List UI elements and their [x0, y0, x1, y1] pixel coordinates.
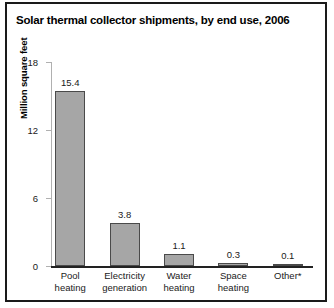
plot-area: 061218 15.4Poolheating3.8Electricitygene… [51, 62, 323, 266]
y-tick: 6 [46, 198, 51, 199]
x-category-label: Spaceheating [218, 270, 249, 293]
bar-value-label: 3.8 [118, 209, 131, 220]
x-category-label: Electricitygeneration [102, 270, 147, 293]
y-tick-label: 12 [27, 125, 38, 136]
category-label-line: Other* [274, 270, 301, 281]
y-axis-label: Million square feet [18, 37, 29, 119]
y-tick: 12 [46, 130, 51, 131]
x-category-label: Other* [274, 270, 301, 282]
y-tick-label: 18 [27, 57, 38, 68]
y-tick: 18 [46, 62, 51, 63]
bar [273, 264, 303, 267]
bar-group: 0.1Other* [273, 62, 303, 266]
bar-value-label: 15.4 [61, 77, 80, 88]
bar [55, 91, 85, 266]
category-label-line: Water [167, 270, 192, 281]
y-tick-label: 6 [33, 193, 38, 204]
chart-title: Solar thermal collector shipments, by en… [16, 14, 316, 27]
y-tick: 0 [46, 266, 51, 267]
bar [218, 263, 248, 266]
category-label-line: Space [220, 270, 247, 281]
bar-group: 1.1Waterheating [164, 62, 194, 266]
category-label-line: Pool [61, 270, 80, 281]
y-axis-line [51, 62, 52, 266]
x-category-label: Poolheating [55, 270, 86, 293]
bar-group: 3.8Electricitygeneration [110, 62, 140, 266]
x-axis-line [51, 266, 313, 268]
category-label-line: heating [55, 282, 86, 293]
x-category-label: Waterheating [163, 270, 194, 293]
bar [164, 254, 194, 266]
bar-value-label: 0.1 [281, 250, 294, 261]
category-label-line: heating [163, 282, 194, 293]
bar-group: 0.3Spaceheating [218, 62, 248, 266]
bar-group: 15.4Poolheating [55, 62, 85, 266]
category-label-line: Electricity [104, 270, 145, 281]
y-tick-label: 0 [33, 261, 38, 272]
bar-value-label: 0.3 [227, 249, 240, 260]
bar-value-label: 1.1 [172, 240, 185, 251]
bar [110, 223, 140, 266]
category-label-line: generation [102, 282, 147, 293]
chart-figure: Solar thermal collector shipments, by en… [5, 2, 327, 302]
category-label-line: heating [218, 282, 249, 293]
